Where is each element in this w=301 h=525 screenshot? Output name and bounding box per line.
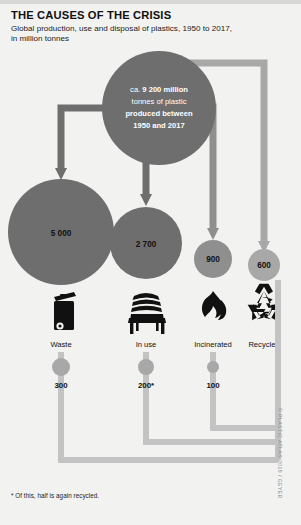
label-recycled: Recycled xyxy=(248,340,279,349)
credit-text: © PLASTIC ATLAS 2019 / GEYER xyxy=(277,408,283,508)
hero-line-1-prefix: ca. xyxy=(130,85,142,94)
hero-line-1-bold: 9 200 million xyxy=(142,85,188,94)
connector-incinerated-arrow xyxy=(207,228,219,240)
label-in-use: In use xyxy=(136,340,157,349)
hero-line-2: tonnes of plastic xyxy=(132,97,187,106)
bubble-incinerated-value: 900 xyxy=(206,255,220,264)
sub-value-incinerated: 100 xyxy=(206,381,220,390)
sub-bubble-waste xyxy=(52,358,70,376)
flame-icon xyxy=(202,291,226,320)
label-incinerated: Incinerated xyxy=(194,340,232,349)
waste-bin-icon xyxy=(54,292,76,330)
sub-value-in-use: 200* xyxy=(138,381,155,390)
hero-line-4: 1950 and 2017 xyxy=(133,121,185,130)
plastic-chair-icon xyxy=(128,293,166,334)
hero-bubble xyxy=(102,51,216,165)
infographic-root: THE CAUSES OF THE CRISIS Global producti… xyxy=(0,0,301,525)
hero-line-3: produced between xyxy=(125,109,192,118)
sub-bubble-in-use xyxy=(138,359,154,375)
label-waste: Waste xyxy=(50,340,71,349)
bubble-chart: ca. 9 200 million tonnes of plastic prod… xyxy=(0,0,301,525)
hero-line-1: ca. 9 200 million xyxy=(130,85,188,94)
bubble-waste-value: 5 000 xyxy=(51,229,72,238)
sub-value-waste: 300 xyxy=(54,381,68,390)
connector-waste-arrow xyxy=(55,168,67,180)
footnote: * Of this, half is again recycled. xyxy=(11,492,99,499)
sub-bubble-incinerated xyxy=(207,361,219,373)
bubble-recycled-value: 600 xyxy=(257,261,271,270)
connector-in-use-arrow xyxy=(140,194,152,206)
flow-line-incinerated xyxy=(213,352,278,428)
bubble-in-use-value: 2 700 xyxy=(136,240,157,249)
